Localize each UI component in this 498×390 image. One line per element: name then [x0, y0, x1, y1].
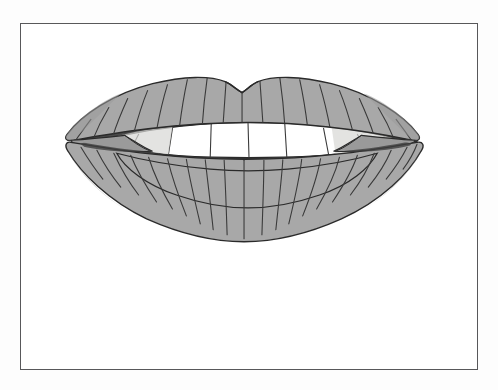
mouth-illustration [21, 24, 477, 369]
illustration-frame [20, 23, 478, 370]
figure-title: Smiling mouth line drawing [0, 0, 1, 1]
page-canvas: Smiling mouth line drawing [0, 0, 498, 390]
